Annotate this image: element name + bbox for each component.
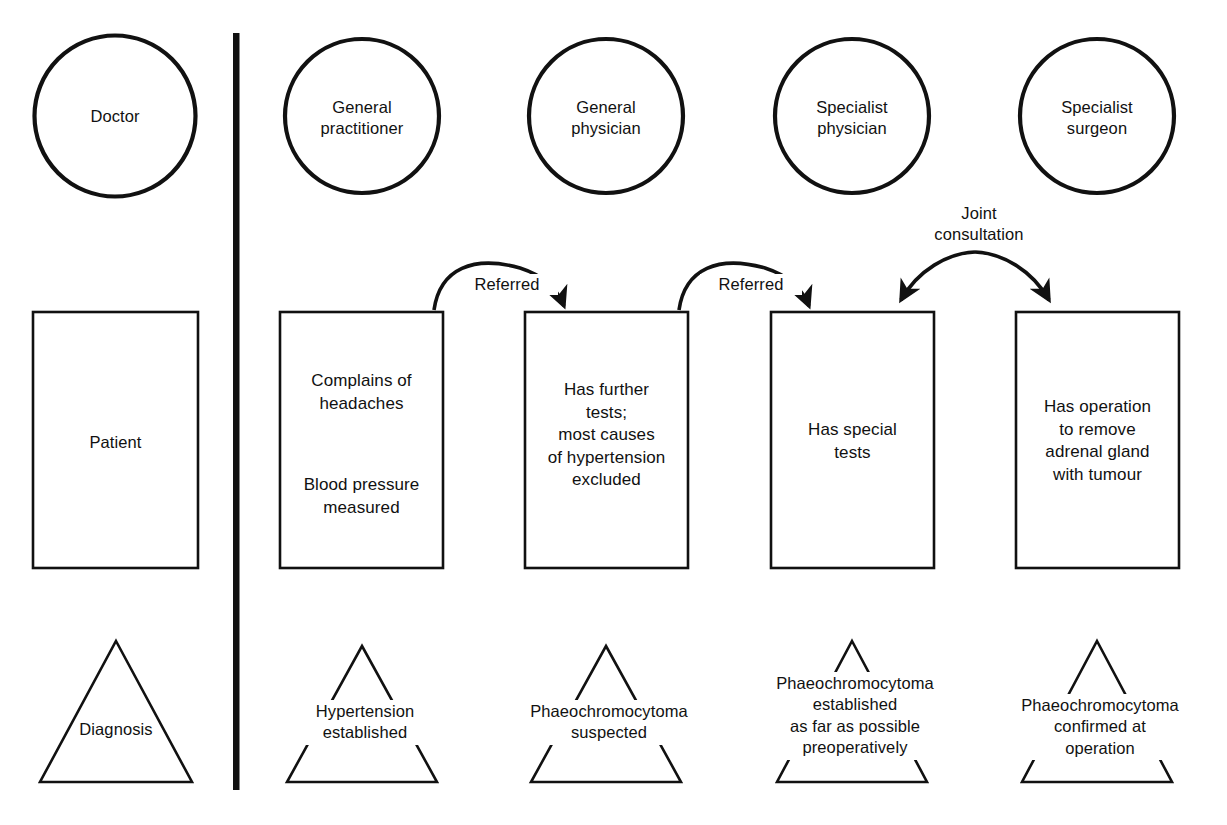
box-general-practitioner — [280, 312, 443, 568]
arrow-joint-consultation-left — [901, 252, 975, 300]
box-label-gp-part1: Complains of headaches — [282, 370, 441, 415]
role-label-general-physician: General physician — [526, 97, 686, 140]
box-label-gp-part2: Blood pressure measured — [282, 474, 441, 519]
triangle-diagnosis — [40, 641, 192, 782]
box-label-specialist-surgeon: Has operation to remove adrenal gland wi… — [1016, 396, 1179, 486]
role-label-specialist-surgeon: Specialist surgeon — [1017, 97, 1177, 140]
triangle-label-phaeo-established: Phaeochromocytoma established as far as … — [739, 672, 971, 760]
arrow-joint-consultation-right — [975, 252, 1049, 300]
triangle-label-hypertension: Hypertension established — [277, 700, 453, 745]
vertical-divider — [233, 33, 240, 790]
arrow-label-joint-consultation: Joint consultation — [905, 203, 1053, 245]
role-label-specialist-physician: Specialist physician — [772, 97, 932, 140]
arrow-label-referred-1: Referred — [456, 274, 558, 295]
arrow-label-referred-2: Referred — [700, 274, 802, 295]
box-label-specialist-physician: Has special tests — [773, 419, 932, 464]
role-label-doctor: Doctor — [35, 106, 195, 127]
box-label-general-physician: Has further tests; most causes of hypert… — [520, 379, 693, 492]
row-label-diagnosis: Diagnosis — [41, 719, 191, 740]
triangle-label-phaeo-confirmed: Phaeochromocytoma confirmed at operation — [984, 694, 1216, 760]
triangle-label-phaeo-suspected: Phaeochromocytoma suspected — [495, 700, 723, 745]
diagram-canvas: Doctor General practitioner General phys… — [0, 0, 1227, 825]
row-label-patient: Patient — [35, 432, 196, 453]
role-label-general-practitioner: General practitioner — [282, 97, 442, 140]
